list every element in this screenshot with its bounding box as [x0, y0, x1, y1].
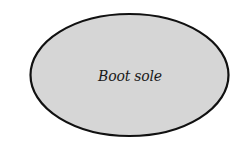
- boot-sole-label: Boot sole: [30, 14, 230, 137]
- boot-sole-label-text: Boot sole: [98, 68, 162, 84]
